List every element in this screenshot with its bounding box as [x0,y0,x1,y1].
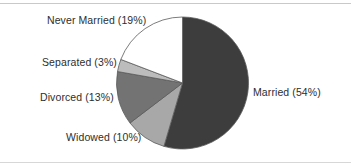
pie-chart-figure: Married (54%) Widowed (10%) Divorced (13… [0,0,351,166]
pie-slice-group [116,17,248,149]
pie-label-widowed: Widowed (10%) [66,131,141,143]
pie-label-married: Married (54%) [253,86,321,98]
pie-label-separated: Separated (3%) [42,56,117,68]
pie-label-divorced: Divorced (13%) [40,91,114,103]
pie-label-never-married: Never Married (19%) [47,14,146,26]
